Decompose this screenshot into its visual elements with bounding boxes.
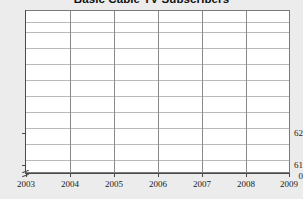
gridline-vertical-2	[158, 11, 159, 172]
chart-figure: Basic Cable TV Subscribers 62610 2003200…	[0, 0, 303, 199]
x-tick-mark-2008	[246, 173, 247, 177]
x-tick-mark-2006	[158, 173, 159, 177]
gridline-vertical-3	[202, 11, 203, 172]
y-axis-line	[25, 10, 26, 173]
x-tick-label-2009: 2009	[269, 179, 303, 189]
x-tick-mark-2009	[289, 173, 290, 177]
x-tick-mark-2005	[114, 173, 115, 177]
chart-title: Basic Cable TV Subscribers	[0, 0, 303, 5]
gridline-vertical-0	[70, 11, 71, 172]
gridline-vertical-4	[246, 11, 247, 172]
y-tick-mark-1	[22, 165, 26, 166]
y-tick-label-62: 62	[281, 129, 303, 138]
y-tick-label-61: 61	[281, 161, 303, 170]
x-tick-mark-2007	[202, 173, 203, 177]
x-tick-mark-2004	[70, 173, 71, 177]
gridline-vertical-1	[114, 11, 115, 172]
y-tick-mark-0	[22, 133, 26, 134]
axis-break-marker	[22, 170, 29, 178]
x-tick-label-2003: 2003	[6, 179, 46, 189]
x-tick-label-2005: 2005	[94, 179, 134, 189]
x-tick-label-2008: 2008	[226, 179, 266, 189]
x-tick-label-2006: 2006	[138, 179, 178, 189]
x-tick-label-2004: 2004	[50, 179, 90, 189]
plot-area	[25, 10, 290, 173]
x-tick-label-2007: 2007	[182, 179, 222, 189]
